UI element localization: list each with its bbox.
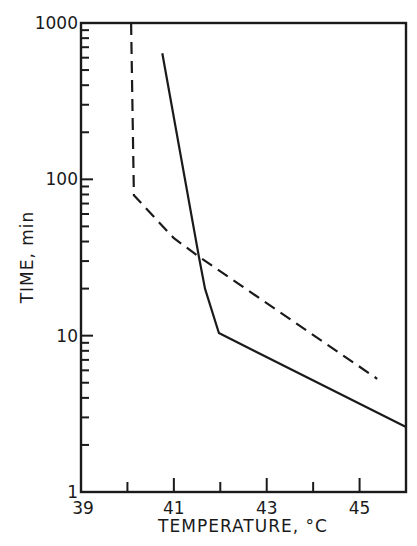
- data-series: [131, 23, 406, 427]
- chart: 39414345 1101001000 TEMPERATURE, °C TIME…: [0, 0, 417, 546]
- plot-border: [81, 23, 406, 492]
- solid-line-series: [162, 53, 406, 427]
- y-axis-ticks: 1101001000: [35, 13, 93, 502]
- dashed-line-series: [131, 23, 377, 379]
- x-tick-label: 45: [349, 498, 371, 518]
- y-axis-label: TIME, min: [17, 211, 37, 305]
- x-axis-label: TEMPERATURE, °C: [157, 516, 328, 536]
- y-tick-label: 1000: [35, 13, 78, 33]
- x-axis-ticks: 39414345: [72, 478, 370, 518]
- y-tick-label: 10: [56, 326, 78, 346]
- x-tick-label: 43: [256, 498, 278, 518]
- plot-frame: [81, 23, 406, 492]
- x-tick-label: 41: [163, 498, 185, 518]
- y-tick-label: 100: [46, 169, 78, 189]
- y-tick-label: 1: [67, 482, 78, 502]
